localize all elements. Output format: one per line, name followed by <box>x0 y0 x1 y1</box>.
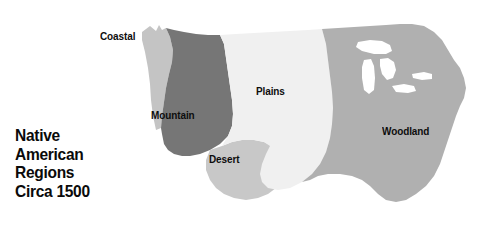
title-line-4: Circa 1500 <box>15 182 126 201</box>
region-label-mountain: Mountain <box>151 110 195 121</box>
figure-title: Native American Regions Circa 1500 <box>15 126 133 200</box>
region-label-plains: Plains <box>256 86 285 97</box>
title-line-2: American <box>15 145 126 164</box>
map-figure: Native American Regions Circa 1500 <box>0 0 489 236</box>
title-line-3: Regions <box>15 163 126 182</box>
title-line-1: Native <box>15 126 126 145</box>
lake-michigan <box>362 59 375 94</box>
region-label-coastal: Coastal <box>100 31 135 42</box>
region-label-woodland: Woodland <box>382 126 429 137</box>
region-label-desert: Desert <box>209 154 239 165</box>
